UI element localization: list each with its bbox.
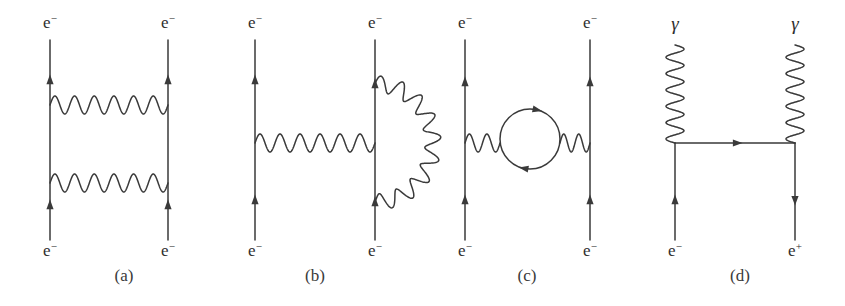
photon-right-vertical-d	[786, 45, 804, 143]
fermion-arrow-a-0	[46, 75, 53, 85]
panel-caption-d: (d)	[730, 266, 750, 285]
label-bottom-left-d: e−	[668, 240, 682, 260]
photon-lower-a	[50, 174, 168, 192]
label-top-left-b: e−	[248, 12, 262, 32]
label-top-left-c: e−	[458, 12, 472, 32]
feynman-diagram-figure: e−e−e−e−(a)e−e−e−e−(b)e−e−e−e−(c)γγe−e+(…	[0, 0, 845, 306]
fermion-arrow-b-3	[371, 197, 378, 207]
photon-exchange-b	[255, 134, 375, 152]
fermion-arrow-b-2	[251, 195, 258, 205]
panel-caption-b: (b)	[305, 266, 325, 285]
label-top-right-a: e−	[161, 12, 175, 32]
panel-caption-a: (a)	[115, 266, 134, 285]
label-bottom-left-c: e−	[458, 240, 472, 260]
photon-right-segment-c	[560, 134, 590, 152]
label-top-right-photon-d: γ	[791, 13, 799, 34]
photon-left-segment-c	[465, 134, 500, 152]
panel-caption-c: (c)	[518, 266, 537, 285]
diagram-canvas: e−e−e−e−(a)e−e−e−e−(b)e−e−e−e−(c)γγe−e+(…	[0, 0, 845, 306]
label-bottom-right-d: e+	[788, 240, 802, 260]
label-top-left-photon-d: γ	[671, 13, 679, 34]
fermion-arrow-c-2	[461, 195, 468, 205]
label-top-right-b: e−	[368, 12, 382, 32]
label-top-left-a: e−	[43, 12, 57, 32]
arrow-horizontal-d	[733, 139, 743, 146]
label-top-right-c: e−	[583, 12, 597, 32]
label-bottom-left-a: e−	[43, 240, 57, 260]
fermion-arrow-d-1	[791, 196, 798, 206]
fermion-arrow-d-0	[671, 195, 678, 205]
fermion-arrow-c-0	[461, 77, 468, 87]
fermion-arrow-b-0	[251, 75, 258, 85]
label-bottom-right-a: e−	[161, 240, 175, 260]
fermion-arrow-a-3	[164, 200, 171, 210]
fermion-arrow-c-3	[586, 195, 593, 205]
fermion-arrow-a-2	[46, 200, 53, 210]
photon-upper-a	[50, 96, 168, 114]
fermion-arrow-c-1	[586, 77, 593, 87]
label-bottom-right-c: e−	[583, 240, 597, 260]
fermion-loop-c	[500, 109, 560, 169]
label-bottom-left-b: e−	[248, 240, 262, 260]
label-bottom-right-b: e−	[368, 240, 382, 260]
photon-self-energy-loop-b	[375, 76, 441, 208]
fermion-arrow-a-1	[164, 75, 171, 85]
photon-left-vertical-d	[666, 45, 684, 143]
